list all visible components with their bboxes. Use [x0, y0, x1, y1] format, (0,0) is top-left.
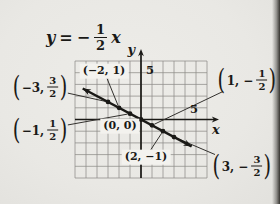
- paren-close: ): [264, 155, 272, 178]
- point-label-origin: (0, 0): [100, 119, 139, 134]
- svg-text:y: y: [126, 42, 136, 57]
- point-label-neg2-1: (−2, 1): [80, 64, 129, 79]
- paren-open: (: [13, 119, 21, 142]
- point-label-neg1-half: ( −1, 12 ): [12, 119, 68, 142]
- point-label-pos1-neghalf: ( 1, − 12 ): [217, 69, 277, 92]
- paren-close: ): [60, 119, 68, 142]
- label-text: 3, −: [222, 159, 249, 173]
- label-text: −3,: [22, 80, 45, 94]
- label-fraction: 32: [251, 155, 262, 178]
- paren-open: (: [218, 69, 226, 92]
- label-text: (0, 0): [103, 120, 136, 133]
- label-text: −1,: [22, 123, 45, 137]
- paren-open: (: [13, 76, 21, 99]
- label-text: (2, −1): [125, 151, 168, 164]
- label-fraction: 12: [256, 69, 267, 92]
- scanned-textbook-figure: y = − 12 x 55xy ( −3, 32 ) ( −1, 12 ) ( …: [0, 0, 280, 204]
- label-fraction: 12: [47, 119, 58, 142]
- svg-text:5: 5: [190, 102, 198, 116]
- plotted-line: [81, 86, 193, 150]
- label-fraction: 32: [47, 76, 58, 99]
- svg-text:x: x: [211, 122, 220, 137]
- point-label-neg3-threehalves: ( −3, 32 ): [12, 76, 68, 99]
- label-text: 1, −: [227, 73, 254, 87]
- scan-edge-shadow: [272, 0, 280, 204]
- paren-open: (: [213, 155, 221, 178]
- svg-text:5: 5: [146, 63, 154, 77]
- point-label-pos3-negthreehalves: ( 3, − 32 ): [212, 155, 272, 178]
- label-text: (−2, 1): [83, 65, 126, 78]
- paren-close: ): [60, 76, 68, 99]
- point-label-pos2-neg1: (2, −1): [122, 150, 171, 165]
